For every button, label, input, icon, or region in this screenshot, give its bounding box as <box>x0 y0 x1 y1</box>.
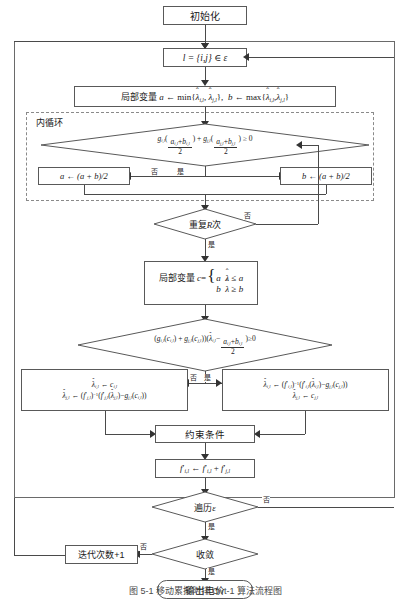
bisect-test-diamond-shape <box>41 124 369 166</box>
node-sign-test[interactable]: (gi,l(ci,l) + gj,l(cj,l))(λi,l−ai,l+bi,l… <box>78 319 332 371</box>
edge-iterinc-to-frame <box>14 555 65 556</box>
edge-label-bisect-yes: 是 <box>176 168 184 176</box>
edge-repeat-no-return <box>300 145 318 146</box>
edge-updateb-down <box>326 185 327 194</box>
edge-repeat-no-h <box>256 224 318 225</box>
repeat-r-diamond-shape <box>154 209 256 239</box>
sign-test-diamond-shape <box>78 319 332 371</box>
node-constraints-label: 约束条件 <box>185 427 225 441</box>
node-local-c[interactable]: 局部变量 c={a λ ≤ ab λ ≥ b <box>144 261 258 305</box>
traverse-diamond-shape <box>152 492 258 522</box>
node-edge-select[interactable]: l = {i,j} ∈ ε <box>163 48 247 67</box>
node-start[interactable]: 初始化 <box>163 6 247 25</box>
edge-frame-top-return <box>14 41 205 42</box>
edge-updatea-down <box>84 185 85 194</box>
arrowhead-frame-to-edgeselect <box>201 43 209 49</box>
edge-label-converge-yes: 是 <box>207 568 215 576</box>
edge-label-traverse-yes: 是 <box>207 523 215 531</box>
edge-assignright-down <box>305 411 306 434</box>
edge-iterinc-up <box>14 498 15 555</box>
node-local-ab[interactable]: 局部变量 a ← min{λi,l, λj,l}, b ← max{λi,l,λ… <box>74 86 336 107</box>
node-flow-sum[interactable]: f′i,l ← f′i,l + f′j,l <box>155 459 255 478</box>
node-traverse[interactable]: 遍历ε <box>152 492 258 522</box>
edge-label-sign-no: 否 <box>189 374 197 382</box>
node-assign-right-line2: λj,l ← cj,l <box>293 391 318 400</box>
node-constraints[interactable]: 约束条件 <box>155 425 255 443</box>
edge-assignright-to-constraints <box>258 434 305 435</box>
node-flow-sum-label: f′i,l ← f′i,l + f′j,l <box>180 463 230 474</box>
node-start-label: 初始化 <box>190 8 220 23</box>
edge-assignleft-to-constraints <box>105 434 152 435</box>
flowchart-canvas: 内循环 初始化 l = {i,j} ∈ ε 局部变量 a ← min{λi,l,… <box>0 0 411 603</box>
outer-return-frame-right-edge <box>394 41 395 498</box>
edge-repeat-no-v <box>318 145 319 224</box>
edge-bisect-stem <box>205 166 206 176</box>
node-assign-left-line1: λi,l ← ci,l <box>92 380 117 389</box>
edge-bisect-split <box>130 176 280 177</box>
edge-label-bisect-no: 否 <box>150 168 158 176</box>
edge-label-converge-no: 否 <box>139 543 147 551</box>
edge-traverse-no-return-h <box>247 57 394 58</box>
node-update-b-label: b ← (a + b)/2 <box>302 171 350 181</box>
node-local-ab-label: 局部变量 a ← min{λi,l, λj,l}, b ← max{λi,l,λ… <box>121 90 289 103</box>
node-assign-right[interactable]: λi,l ← (f′i,l)−1(f′i,l(λi,l)−gj,l(cj,l))… <box>222 369 389 411</box>
node-converge[interactable]: 收敛 <box>152 539 258 569</box>
node-iter-inc[interactable]: 迭代次数+1 <box>65 545 138 564</box>
converge-diamond-shape <box>152 539 258 569</box>
node-update-a[interactable]: a ← (a + b)/2 <box>38 167 130 185</box>
node-update-a-label: a ← (a + b)/2 <box>60 171 108 181</box>
arrowhead-traverse-no-to-edgeselect <box>243 53 249 61</box>
node-repeat-r[interactable]: 重复R次 <box>154 209 256 239</box>
node-local-c-label: 局部变量 c={a λ ≤ ab λ ≥ b <box>159 271 243 296</box>
node-assign-right-line1: λi,l ← (f′i,l)−1(f′i,l(λi,l)−gj,l(cj,l)) <box>264 380 348 389</box>
edge-label-traverse-no: 否 <box>262 496 270 504</box>
edge-converge-no-h <box>138 554 152 555</box>
edge-traverse-no-h <box>258 507 394 508</box>
node-update-b[interactable]: b ← (a + b)/2 <box>280 167 372 185</box>
node-edge-select-label: l = {i,j} ∈ ε <box>183 52 228 63</box>
node-iter-inc-label: 迭代次数+1 <box>78 548 124 561</box>
node-assign-left-line2: λj,l ← (f′j,l)−1(f′j,l(λj,l)−gj,l(ci,l)) <box>63 391 147 400</box>
node-bisect-test[interactable]: gi,l(ai,l+bi,l2) + gj,l(aj,l+bj,l2) ≥ 0 <box>41 124 369 166</box>
edge-label-repeat-yes: 是 <box>207 241 215 249</box>
node-assign-left[interactable]: λi,l ← ci,l λj,l ← (f′j,l)−1(f′j,l(λj,l)… <box>21 369 188 411</box>
edge-assignleft-down <box>105 411 106 434</box>
figure-caption: 图 5-1 移动累接时排 Ovt-1 算法流程图 <box>0 585 411 597</box>
edge-label-repeat-no: 否 <box>243 212 251 220</box>
edge-label-sign-yes: 是 <box>203 374 211 382</box>
arrowhead-repeat-no-to-bisect <box>296 141 302 149</box>
